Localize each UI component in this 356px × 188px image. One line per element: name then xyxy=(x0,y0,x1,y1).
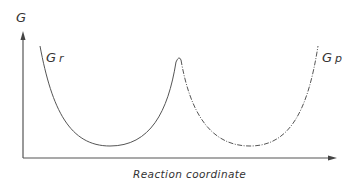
y-axis-arrowhead-icon xyxy=(21,31,26,40)
x-axis-label: Reaction coordinate xyxy=(133,168,246,180)
energy-diagram: G Reaction coordinate Gr Gp xyxy=(0,0,356,188)
product-label-main: G xyxy=(322,50,332,65)
product-label-sub: p xyxy=(334,52,342,65)
reactant-label-main: G xyxy=(46,50,56,65)
product-curve xyxy=(181,46,318,146)
y-axis-label: G xyxy=(16,10,26,25)
reactant-label-sub: r xyxy=(59,52,65,65)
product-curve-label: Gp xyxy=(322,50,342,65)
x-axis-arrowhead-icon xyxy=(328,156,337,161)
reactant-curve-label: Gr xyxy=(46,50,65,65)
